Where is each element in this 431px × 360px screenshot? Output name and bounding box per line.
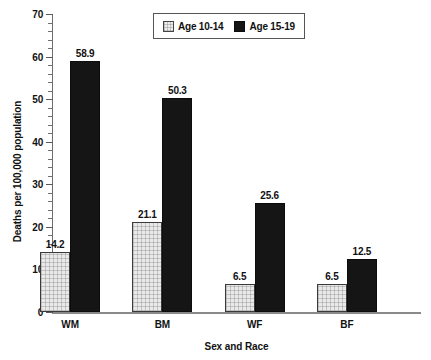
- bar-wf-series-1: 6.5: [225, 284, 255, 312]
- y-axis-tick-label: 70: [9, 9, 43, 20]
- y-axis-tick-minor: [48, 48, 53, 49]
- y-axis-tick-major: [46, 227, 53, 228]
- bar-wm-series-2: 58.9: [70, 61, 100, 312]
- legend-label-age-15-19: Age 15-19: [249, 21, 294, 32]
- bar-chart: Deaths per 100,000 population Sex and Ra…: [0, 0, 431, 360]
- bar-bf-series-2: 12.5: [347, 259, 377, 312]
- y-axis-tick-major: [46, 99, 53, 100]
- y-axis-tick-label: 10: [9, 264, 43, 275]
- y-axis-tick-minor: [48, 210, 53, 211]
- bar-value-label: 25.6: [260, 190, 279, 201]
- y-axis-tick-major: [46, 312, 53, 313]
- y-axis-tick-label: 0: [9, 307, 43, 318]
- x-axis-label-bm: BM: [155, 319, 170, 330]
- y-axis-tick-minor: [48, 218, 53, 219]
- y-axis-tick-major: [46, 142, 53, 143]
- y-axis-tick-minor: [48, 108, 53, 109]
- y-axis-tick-minor: [48, 23, 53, 24]
- legend-entry-age-15-19: Age 15-19: [234, 21, 294, 32]
- bar-value-label: 21.1: [138, 209, 157, 220]
- bar-bm-series-1: 21.1: [132, 222, 162, 312]
- y-axis-tick-minor: [48, 82, 53, 83]
- bar-value-label: 50.3: [168, 85, 187, 96]
- plot-area: 010203040506070 14.258.921.150.36.525.66…: [52, 14, 421, 313]
- bar-value-label: 58.9: [76, 48, 95, 59]
- legend-swatch-icon-age-15-19: [234, 21, 245, 32]
- legend: Age 10-14 Age 15-19: [153, 13, 305, 39]
- y-axis-tick-label: 60: [9, 51, 43, 62]
- bar-wf-series-2: 25.6: [255, 203, 285, 312]
- y-axis-tick-label: 30: [9, 179, 43, 190]
- bar-bf-series-1: 6.5: [317, 284, 347, 312]
- y-axis-tick-minor: [48, 125, 53, 126]
- x-axis-line: [52, 312, 421, 314]
- bar-wm-series-1: 14.2: [40, 252, 70, 312]
- y-axis-tick-label: 40: [9, 136, 43, 147]
- y-axis-tick-minor: [48, 159, 53, 160]
- y-axis-tick-minor: [48, 74, 53, 75]
- y-axis-tick-minor: [48, 176, 53, 177]
- x-axis-label-wm: WM: [61, 319, 79, 330]
- y-axis-tick-minor: [48, 193, 53, 194]
- y-axis-tick-major: [46, 57, 53, 58]
- y-axis-tick-major: [46, 14, 53, 15]
- legend-swatch-icon-age-10-14: [163, 21, 174, 32]
- legend-entry-age-10-14: Age 10-14: [163, 21, 223, 32]
- y-axis-tick-minor: [48, 116, 53, 117]
- bar-value-label: 6.5: [233, 271, 246, 282]
- y-axis-tick-minor: [48, 65, 53, 66]
- legend-label-age-10-14: Age 10-14: [178, 21, 223, 32]
- y-axis-tick-minor: [48, 133, 53, 134]
- y-axis-tick-minor: [48, 235, 53, 236]
- bar-value-label: 6.5: [325, 271, 338, 282]
- y-axis-tick-minor: [48, 91, 53, 92]
- bar-value-label: 14.2: [46, 239, 65, 250]
- y-axis-tick-minor: [48, 201, 53, 202]
- y-axis-tick-label: 50: [9, 94, 43, 105]
- y-axis-tick-minor: [48, 40, 53, 41]
- x-axis-label-wf: WF: [247, 319, 262, 330]
- y-axis-tick-label: 20: [9, 221, 43, 232]
- y-axis-tick-minor: [48, 150, 53, 151]
- y-axis-tick-major: [46, 184, 53, 185]
- x-axis-title: Sex and Race: [52, 341, 421, 352]
- x-axis-label-bf: BF: [340, 319, 353, 330]
- y-axis-tick-minor: [48, 167, 53, 168]
- bar-value-label: 12.5: [353, 246, 372, 257]
- bar-bm-series-2: 50.3: [162, 98, 192, 312]
- y-axis-tick-minor: [48, 31, 53, 32]
